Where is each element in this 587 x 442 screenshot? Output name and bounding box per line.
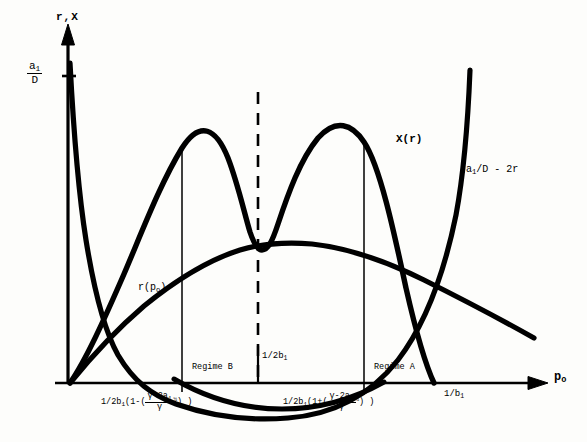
- curve-label-a1-over-D-minus-2r: a1/D - 2r: [466, 165, 518, 177]
- curve-label-X-of-r: X(r): [396, 134, 422, 146]
- x-tick-label-right-root: 1/2b1(1+(γ-2a1γ½) ): [283, 392, 374, 411]
- region-label-regime-b: Regime B: [192, 363, 233, 372]
- y-tick-denominator: D: [27, 74, 42, 87]
- x-axis-arrowhead: [528, 377, 548, 390]
- left-root-numerator-subscript: 1: [168, 395, 172, 402]
- y-axis-label: r,X: [56, 12, 79, 24]
- right-root-open: (1+(: [307, 397, 327, 407]
- x-tick-label-midpoint: 1/2b1: [262, 352, 288, 363]
- right-root-fraction: γ-2a1γ: [327, 392, 355, 411]
- y-tick-numerator-subscript: 1: [36, 64, 41, 73]
- x-axis-label-subscript: o: [561, 375, 566, 385]
- axis-group: [55, 24, 548, 390]
- upper-bound-subscript: 1: [460, 393, 464, 400]
- right-root-close: ) ): [359, 397, 374, 407]
- right-root-prefix: 1/2b: [283, 397, 303, 407]
- left-root-denominator: γ: [145, 403, 173, 412]
- y-tick-numerator: a1: [27, 60, 42, 74]
- x-tick-label-upper-bound: 1/b1: [444, 390, 464, 401]
- x-axis-label: po: [554, 371, 566, 385]
- region-label-regime-a: Regime A: [374, 363, 415, 372]
- left-root-prefix: 1/2b: [101, 397, 121, 407]
- curve-label-r-of-p-o: r(po): [138, 283, 166, 295]
- curve-label-r-close: ): [160, 282, 166, 293]
- curve-label-decay-rest: /D - 2r: [476, 164, 518, 175]
- left-root-close: ) ): [177, 397, 192, 407]
- figure-container: r,X a1 D po X(r) a1/D - 2r r(po) Regime …: [0, 0, 587, 442]
- plot-canvas: [0, 0, 587, 442]
- curve-X-of-r: [70, 126, 434, 383]
- left-root-open: (1-(: [125, 397, 145, 407]
- left-root-fraction: γ-2a1γ: [145, 392, 173, 411]
- midpoint-subscript: 1: [284, 355, 288, 362]
- right-root-denominator: γ: [327, 403, 355, 412]
- right-root-numerator-subscript: 1: [350, 395, 354, 402]
- y-tick-label-a1-over-D: a1 D: [27, 60, 42, 87]
- x-tick-label-left-root: 1/2b1(1-(γ-2a1γ½) ): [101, 392, 192, 411]
- curve-r-of-p-o: [70, 243, 534, 383]
- y-axis-arrowhead: [62, 24, 75, 45]
